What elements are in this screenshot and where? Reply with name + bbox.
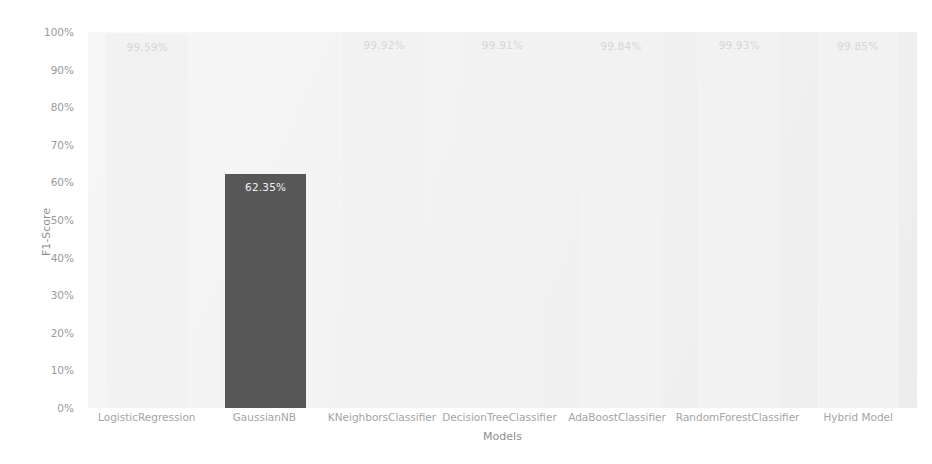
x-axis-title: Models xyxy=(88,430,917,443)
bar-value-label: 99.92% xyxy=(363,39,404,51)
bar[interactable]: 99.59% xyxy=(106,34,188,408)
bar-slot: 99.84% xyxy=(562,32,680,408)
y-axis-tick: 70% xyxy=(51,139,74,151)
bar-value-label: 99.91% xyxy=(482,39,523,51)
bar-value-label: 99.59% xyxy=(127,41,168,53)
bar[interactable]: 99.84% xyxy=(580,33,662,408)
bar-value-label: 99.93% xyxy=(719,39,760,51)
x-axis-tick: Hybrid Model xyxy=(799,409,917,429)
y-axis-tick: 90% xyxy=(51,64,74,76)
x-axis-tick: AdaBoostClassifier xyxy=(558,409,676,429)
x-axis-tick: DecisionTreeClassifier xyxy=(441,409,559,429)
bar-series: 99.59%62.35%99.92%99.91%99.84%99.93%99.8… xyxy=(88,32,917,408)
bar[interactable]: 99.91% xyxy=(462,32,544,408)
y-axis-tick: 20% xyxy=(51,327,74,339)
y-axis-tick: 100% xyxy=(44,26,74,38)
x-axis-tick-labels: LogisticRegressionGaussianNBKNeighborsCl… xyxy=(88,409,917,429)
bar-value-label: 99.85% xyxy=(837,40,878,52)
bar-value-label: 62.35% xyxy=(245,181,286,193)
bar-slot: 99.85% xyxy=(799,32,917,408)
bar[interactable]: 99.93% xyxy=(698,32,780,408)
y-axis-tick: 80% xyxy=(51,101,74,113)
y-axis-tick-labels: 100%90%80%70%60%50%40%30%20%10%0% xyxy=(0,32,82,408)
x-axis-tick: KNeighborsClassifier xyxy=(323,409,441,429)
y-axis-tick: 0% xyxy=(57,402,74,414)
bar-slot: 99.59% xyxy=(88,32,206,408)
x-axis-tick: GaussianNB xyxy=(206,409,324,429)
bar[interactable]: 99.85% xyxy=(817,33,899,408)
bar-chart-figure: F1-Score 100%90%80%70%60%50%40%30%20%10%… xyxy=(0,0,932,464)
y-axis-tick: 30% xyxy=(51,289,74,301)
y-axis-tick: 60% xyxy=(51,176,74,188)
bar-slot: 99.91% xyxy=(443,32,561,408)
bar[interactable]: 62.35% xyxy=(225,174,307,408)
plot-area: 99.59%62.35%99.92%99.91%99.84%99.93%99.8… xyxy=(88,32,917,408)
bar-slot: 99.93% xyxy=(680,32,798,408)
bar-value-label: 99.84% xyxy=(600,40,641,52)
y-axis-tick: 10% xyxy=(51,364,74,376)
bar[interactable]: 99.92% xyxy=(343,32,425,408)
y-axis-tick: 40% xyxy=(51,252,74,264)
bar-slot: 62.35% xyxy=(206,32,324,408)
bar-slot: 99.92% xyxy=(325,32,443,408)
y-axis-tick: 50% xyxy=(51,214,74,226)
x-axis-tick: RandomForestClassifier xyxy=(676,409,800,429)
x-axis-tick: LogisticRegression xyxy=(88,409,206,429)
